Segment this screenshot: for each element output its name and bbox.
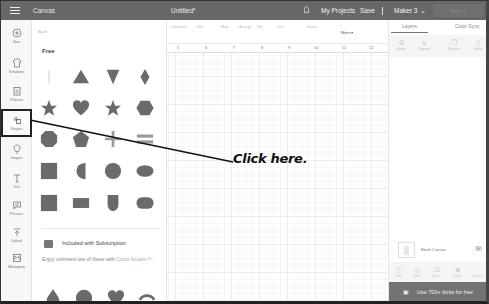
text-icon [12, 173, 22, 183]
subscription-description: Enjoy unlimited use of these with Cricut… [42, 255, 157, 263]
shape-inverted-triangle[interactable] [104, 68, 122, 86]
layer-actions: ◫Slice ◎Weld ⊡Attach ◆Flatten ◌Contour [389, 262, 488, 282]
shape-diamond[interactable] [136, 68, 154, 86]
toolbar-item[interactable]: Size [277, 25, 284, 29]
group-button[interactable]: ⧉Group [394, 38, 408, 51]
back-link[interactable]: Back [38, 29, 47, 34]
shape-rectangle[interactable] [72, 194, 90, 212]
save-link[interactable]: Save [360, 7, 375, 14]
sidebar-item-phrases[interactable]: Phrases [1, 194, 32, 222]
sidebar-item-templates[interactable]: Templates [1, 52, 32, 80]
toolbar-item[interactable]: Rotate [307, 25, 317, 29]
duplicate-button[interactable]: ❐Duplicate [447, 38, 461, 51]
sidebar-item-label: Text [13, 185, 19, 189]
make-it-button[interactable]: Make It [433, 4, 483, 17]
app-window: Canvas Untitled* My Projects Save Maker … [0, 0, 489, 304]
toolbar-item[interactable]: Operation [171, 25, 186, 29]
slice-button[interactable]: ◫Slice [391, 265, 407, 278]
shape-teardrop[interactable] [44, 288, 62, 304]
shape-heart[interactable] [72, 99, 90, 117]
upload-icon [12, 227, 22, 237]
my-projects-link[interactable]: My Projects [321, 7, 355, 14]
toolbar-item[interactable]: Arrange [239, 25, 251, 29]
toolbar-item[interactable]: Flip [257, 25, 263, 29]
shape-square-large[interactable] [40, 194, 58, 212]
plus-circle-icon [12, 28, 22, 38]
shape-oval[interactable] [136, 194, 154, 212]
top-bar: Canvas Untitled* My Projects Save Maker … [1, 1, 487, 20]
duplicate-icon: ❐ [447, 38, 461, 47]
shape-arc[interactable] [138, 288, 156, 304]
separator [382, 7, 383, 15]
shape-arch[interactable] [104, 194, 122, 212]
layer-tools: ⧉Group ⧈Ungroup ❐Duplicate ▯Delete [389, 35, 488, 57]
sidebar-item-shapes[interactable]: Shapes [1, 109, 32, 137]
shape-circle[interactable] [104, 162, 122, 180]
shirt-icon [12, 58, 22, 68]
subscription-icon [44, 240, 53, 248]
ungroup-icon: ⧈ [417, 38, 431, 47]
shape-octagon[interactable] [40, 130, 58, 148]
toolbar-item[interactable]: Align [221, 25, 229, 29]
free-section-title: Free [42, 48, 55, 54]
layer-label[interactable]: Blank Canvas [421, 247, 446, 252]
shape-half-circle[interactable] [72, 162, 90, 180]
sidebar-item-monogram[interactable]: Monogram [1, 247, 32, 275]
shape-star[interactable] [40, 99, 58, 117]
shape-equals[interactable] [136, 130, 154, 148]
edit-toolbar: Operation Edit Align Arrange Flip Size R… [167, 20, 388, 44]
menu-icon[interactable] [10, 7, 20, 14]
shape-pentagon[interactable] [72, 130, 90, 148]
clipboard-icon [12, 86, 22, 96]
delete-button[interactable]: ▯Delete [471, 38, 485, 51]
trash-icon: ▯ [471, 38, 485, 47]
bell-icon[interactable] [303, 6, 310, 14]
tab-layers[interactable]: Layers [391, 23, 428, 33]
shape-line[interactable] [40, 68, 58, 86]
attach-icon: ⊡ [429, 265, 445, 274]
sidebar-item-label: Monogram [8, 265, 25, 269]
shape-square[interactable] [40, 162, 58, 180]
machine-select[interactable]: Maker 3 ⌄ [394, 7, 426, 15]
sidebar-item-upload[interactable]: Upload [1, 221, 32, 249]
flatten-button[interactable]: ◆Flatten [449, 265, 465, 278]
contour-button[interactable]: ◌Contour [469, 265, 485, 278]
shape-ellipse[interactable] [136, 162, 154, 180]
design-canvas[interactable] [167, 44, 388, 304]
shape-hexagon[interactable] [136, 99, 154, 117]
sidebar-item-text[interactable]: Text [1, 167, 32, 195]
group-icon: ⧉ [394, 38, 408, 47]
shapes-panel: Back Free Included with Subscription Enj [32, 20, 167, 304]
shape-star-five[interactable] [104, 99, 122, 117]
sidebar-item-label: Upload [11, 239, 22, 243]
shape-plus[interactable] [104, 130, 122, 148]
shape-scalloped-circle[interactable] [75, 288, 93, 304]
annotation-text: Click here. [233, 151, 307, 166]
machine-label: Maker 3 [394, 7, 417, 14]
left-sidebar: New Templates Projects Shapes Images Tex… [1, 20, 32, 304]
ungroup-button[interactable]: ⧈Ungroup [417, 38, 431, 51]
sidebar-item-images[interactable]: Images [1, 138, 32, 166]
slice-icon: ◫ [391, 265, 407, 274]
promo-text: Use 700+ fonts for free [417, 289, 473, 295]
fonts-promo-banner[interactable]: ▣ Use 700+ fonts for free [389, 282, 488, 302]
shape-sub-heart[interactable] [107, 288, 125, 304]
sidebar-item-label: Shapes [11, 127, 23, 131]
eye-icon[interactable] [475, 246, 482, 251]
lightbulb-icon [12, 144, 22, 154]
cricut-access-link[interactable]: Cricut Access™ [116, 256, 151, 262]
layer-thumbnail[interactable] [398, 242, 415, 258]
sidebar-item-label: Projects [10, 98, 23, 102]
sidebar-item-new[interactable]: New [1, 22, 32, 50]
font-icon: ▣ [403, 289, 409, 295]
contour-icon: ◌ [469, 265, 485, 274]
attach-button[interactable]: ⊡Attach [429, 265, 445, 278]
more-dropdown[interactable]: More ▾ [341, 30, 353, 35]
toolbar-item[interactable]: Edit [197, 25, 203, 29]
tab-color-sync[interactable]: Color Sync [455, 23, 479, 29]
shape-triangle[interactable] [72, 68, 90, 86]
weld-button[interactable]: ◎Weld [409, 265, 425, 278]
sidebar-item-projects[interactable]: Projects [1, 80, 32, 108]
speech-bubble-icon [12, 200, 22, 210]
weld-icon: ◎ [409, 265, 425, 274]
